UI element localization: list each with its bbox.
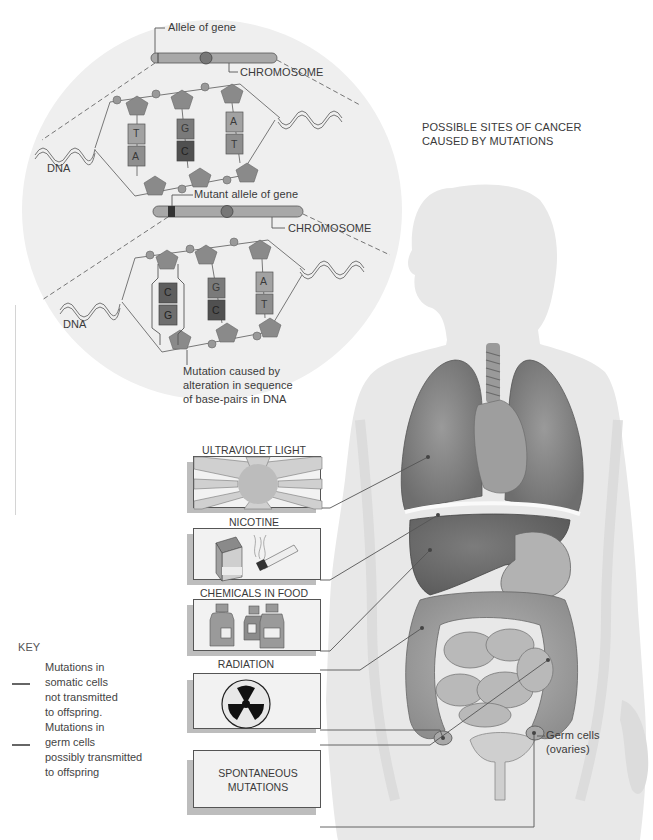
key-somatic-text: Mutations in somatic cells not transmitt… [45, 660, 118, 720]
page-edge-line [15, 305, 16, 515]
cause-box-chemicals [193, 599, 321, 651]
germ-cells-label: Germ cells [546, 729, 600, 741]
key-line-somatic [12, 683, 30, 685]
key-line-germ [12, 744, 30, 746]
cause-title-chemicals: CHEMICALS IN FOOD [190, 587, 318, 599]
ovaries-label: (ovaries) [546, 743, 590, 755]
cigarette-pack-icon [194, 529, 322, 581]
bottles-icon [194, 600, 322, 652]
cause-box-nicotine [193, 528, 321, 580]
cause-title-spontaneous: SPONTANEOUS [194, 767, 322, 779]
cause-box-spontaneous: SPONTANEOUS MUTATIONS [193, 750, 321, 808]
cause-title-radiation: RADIATION [190, 658, 302, 670]
cause-title-nicotine: NICOTINE [192, 516, 316, 528]
key-germ-text: Mutations in germ cells possibly transmi… [45, 720, 142, 780]
cause-box-ultraviolet [193, 456, 321, 508]
radiation-trefoil-icon [194, 674, 322, 730]
key-title: KEY [18, 641, 40, 653]
sun-rays-icon [194, 457, 322, 509]
cause-title-mutations: MUTATIONS [194, 781, 322, 793]
cause-title-ultraviolet: ULTRAVIOLET LIGHT [192, 444, 316, 456]
cause-box-radiation [193, 673, 321, 729]
